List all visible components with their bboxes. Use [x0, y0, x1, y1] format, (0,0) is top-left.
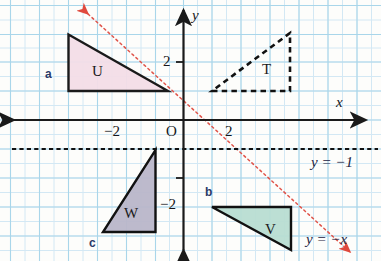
diagram-canvas: [0, 0, 381, 261]
triangle-w: [103, 150, 156, 232]
coordinate-diagram: x y O −2 2 2 −2 U T W V y = −1 y = −x a …: [0, 0, 381, 261]
grid-minor: [0, 0, 381, 261]
triangle-v: [212, 207, 291, 250]
triangle-u: [69, 35, 169, 92]
